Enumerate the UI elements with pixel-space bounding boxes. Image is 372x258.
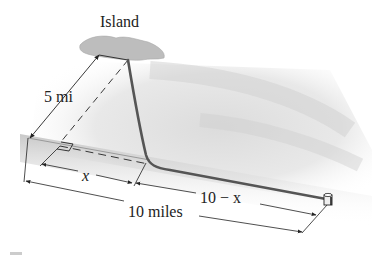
island-shape-icon xyxy=(80,36,165,60)
total-distance-label: 10 miles xyxy=(128,204,183,220)
x-segment-label: x xyxy=(82,168,89,184)
remaining-segment-label: 10 − x xyxy=(200,190,241,206)
terminal-post-icon xyxy=(324,193,332,205)
total-dimension-line xyxy=(26,181,124,201)
island-label: Island xyxy=(100,14,139,30)
island-cable-diagram: Island 5 mi x 10 − x 10 miles xyxy=(0,0,372,258)
diagram-canvas xyxy=(0,0,372,258)
remaining-segment-text: 10 − x xyxy=(200,189,241,206)
offshore-distance-label: 5 mi xyxy=(44,89,73,105)
